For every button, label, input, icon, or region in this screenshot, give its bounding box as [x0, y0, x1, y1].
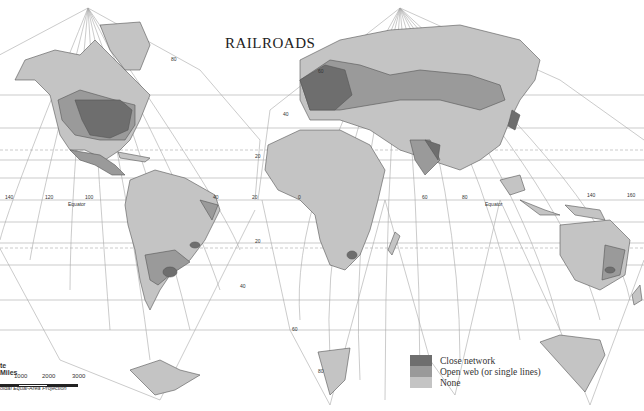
longitude-label: 0 [298, 194, 301, 200]
legend-label: Close network [440, 356, 495, 366]
south-america [125, 170, 220, 310]
map-canvas [0, 0, 644, 411]
latitude-label: 80 [171, 56, 177, 62]
longitude-label: 120 [45, 194, 53, 200]
equator-label: Equator [485, 201, 503, 207]
legend-label: None [440, 378, 461, 388]
oceania [500, 175, 642, 305]
longitude-label: 20 [252, 194, 258, 200]
legend: Close network Open web (or single lines)… [410, 355, 541, 388]
latitude-label: 40 [283, 111, 289, 117]
map-title: RAILROADS [225, 35, 315, 52]
longitude-label: 40 [213, 194, 219, 200]
longitude-label: 160 [627, 192, 635, 198]
longitude-label: 80 [462, 194, 468, 200]
legend-item-none: None [410, 377, 541, 388]
latitude-label: 60 [292, 326, 298, 332]
legend-item-close-network: Close network [410, 355, 541, 366]
legend-swatch [410, 355, 432, 366]
longitude-label: 140 [5, 194, 13, 200]
north-america [15, 22, 150, 175]
latitude-label: 80 [318, 368, 324, 374]
longitude-label: 60 [422, 194, 428, 200]
railroads-map: RAILROADS 140 120 100 40 20 0 60 80 140 … [0, 0, 644, 411]
longitude-label: 140 [587, 192, 595, 198]
legend-item-open-web: Open web (or single lines) [410, 366, 541, 377]
latitude-label: 20 [255, 153, 261, 159]
latitude-label: 20 [255, 238, 261, 244]
legend-label: Open web (or single lines) [440, 367, 541, 377]
scale-tick: 1000 [14, 373, 27, 379]
equator-label: Equator [68, 201, 86, 207]
latitude-label: 60 [318, 68, 324, 74]
legend-swatch [410, 377, 432, 388]
latitude-label: 40 [240, 283, 246, 289]
scale-tick: 2000 [42, 373, 55, 379]
longitude-label: 100 [85, 194, 93, 200]
scale-tick: 3000 [72, 373, 85, 379]
legend-swatch [410, 366, 432, 377]
projection-label: oidal Equal-Area Projection [0, 385, 67, 391]
